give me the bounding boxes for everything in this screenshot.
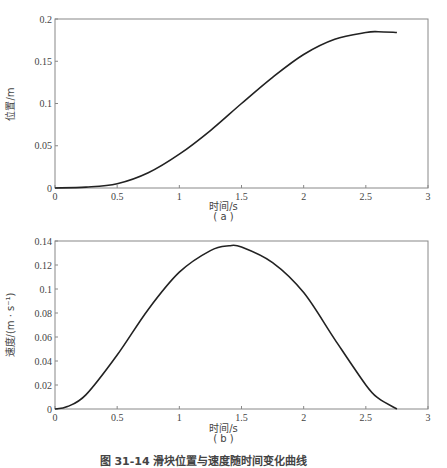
y-axis-label: 速度/(m · s⁻¹) bbox=[4, 292, 16, 357]
panel-a-tag: ( a ) bbox=[0, 211, 447, 222]
y-tick-label: 0 bbox=[47, 404, 52, 415]
chart-velocity: 00.511.522.5300.020.040.060.080.10.120.1… bbox=[4, 236, 431, 424]
y-tick-label: 0.02 bbox=[35, 380, 53, 391]
y-tick-label: 0.1 bbox=[40, 284, 53, 295]
plot-frame bbox=[55, 241, 428, 409]
data-line bbox=[55, 32, 397, 188]
y-tick-label: 0.05 bbox=[35, 140, 53, 151]
y-tick-label: 0.15 bbox=[35, 56, 53, 67]
panel-b-tag: ( b ) bbox=[0, 433, 447, 444]
y-tick-label: 0.2 bbox=[40, 14, 53, 25]
y-axis-label: 位置/m bbox=[4, 87, 16, 120]
data-line bbox=[55, 245, 397, 409]
y-tick-label: 0.1 bbox=[40, 98, 53, 109]
y-tick-label: 0.14 bbox=[35, 236, 53, 247]
y-tick-label: 0.08 bbox=[35, 308, 53, 319]
figure-caption: 图 31-14 滑块位置与速度随时间变化曲线 bbox=[0, 452, 427, 468]
y-tick-label: 0.12 bbox=[35, 260, 53, 271]
chart-position: 00.511.522.5300.050.10.150.2位置/m bbox=[4, 14, 431, 203]
y-tick-label: 0.04 bbox=[35, 356, 53, 367]
y-tick-label: 0.06 bbox=[35, 332, 53, 343]
y-tick-label: 0 bbox=[47, 183, 52, 194]
